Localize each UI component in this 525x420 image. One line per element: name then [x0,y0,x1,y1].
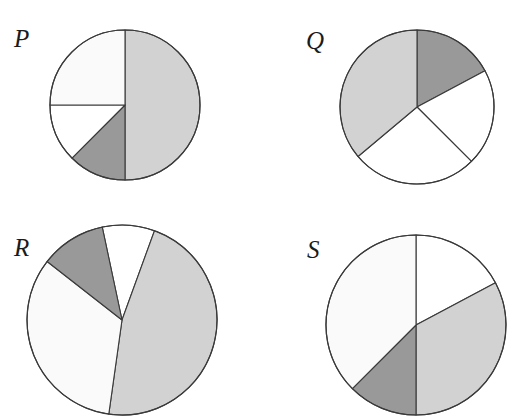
pie-chart-s [320,229,512,420]
pie-chart-r-canvas [21,219,223,420]
pie-chart-q [334,24,500,190]
pie-chart-label-q: Q [306,28,325,53]
pie-chart-p-canvas [44,24,206,186]
pie-chart-p [44,24,206,186]
pie-chart-q-canvas [334,24,500,190]
pie-slice-p-1 [125,30,200,180]
pie-chart-r [21,219,223,420]
pie-chart-label-s: S [307,237,320,262]
pie-slice-p-4 [50,30,125,105]
pie-chart-label-r: R [14,235,30,260]
pie-chart-s-canvas [320,229,512,420]
pie-chart-label-p: P [14,26,30,51]
